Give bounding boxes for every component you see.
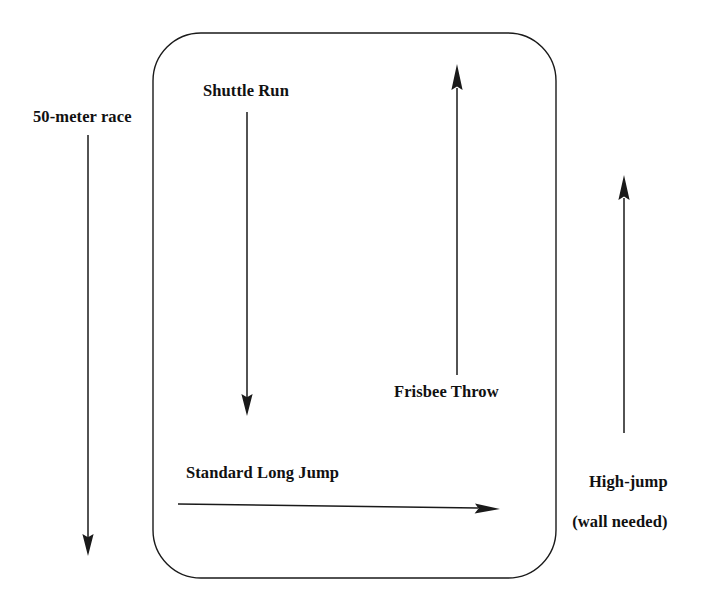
label-shuttle-run: Shuttle Run — [203, 81, 289, 101]
rounded-rectangle-area — [153, 33, 556, 578]
label-high-jump-line1: High-jump — [589, 472, 668, 491]
arrow-high-jump — [618, 175, 629, 433]
arrow-standard-long-jump — [178, 503, 500, 513]
label-high-jump-line2: (wall needed) — [572, 512, 668, 532]
label-standard-long-jump: Standard Long Jump — [186, 463, 339, 483]
arrow-50-meter-race — [82, 135, 93, 556]
arrow-frisbee-throw — [451, 64, 462, 375]
label-50-meter-race: 50-meter race — [33, 107, 132, 127]
label-high-jump: High-jump (wall needed) — [572, 452, 668, 573]
arrow-shuttle-run — [241, 112, 252, 416]
diagram-canvas: 50-meter race Shuttle Run Frisbee Throw … — [0, 0, 704, 609]
label-frisbee-throw: Frisbee Throw — [394, 382, 499, 402]
